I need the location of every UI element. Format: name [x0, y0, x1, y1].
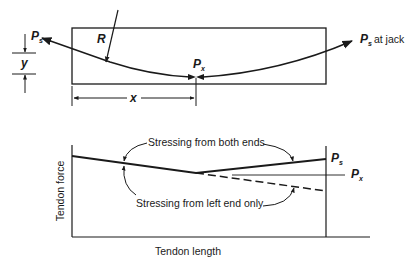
x-dim-label: x [129, 91, 138, 105]
leader-both-ends-right [263, 144, 293, 161]
px-arrowhead-left [188, 74, 196, 80]
y-axis-title: Tendon force [54, 160, 66, 221]
leader-left-end-left [124, 166, 136, 195]
y-dim-label: y [20, 56, 29, 70]
right-ps-at-jack-label: Psat jack [360, 32, 405, 47]
x-dimension: x [72, 78, 196, 106]
x-axis-title: Tendon length [155, 245, 221, 257]
radius-label: R [97, 32, 106, 46]
tendon-force-diagram: R Ps Psat jack Px y x [0, 0, 410, 262]
leader-both-ends-left [124, 143, 147, 161]
left-ps-label: Ps [31, 29, 43, 44]
leader-left-end-right [263, 188, 294, 206]
force-line-left-end-only [196, 173, 326, 191]
annotation-both-ends: Stressing from both ends [148, 136, 265, 148]
beam-elevation: R Ps Psat jack Px y x [12, 10, 405, 106]
end-ps-label: Ps [331, 151, 343, 166]
beam-outline [72, 28, 326, 84]
tendon-profile-right [203, 41, 352, 77]
annotation-left-end-only: Stressing from left end only [136, 197, 264, 209]
px-line-label: Px [351, 167, 364, 182]
tendon-force-chart: Stressing from both ends Stressing from … [54, 136, 370, 257]
mid-px-label: Px [193, 57, 206, 72]
px-arrowhead-right [196, 74, 204, 80]
radius-arrow [106, 10, 118, 62]
tendon-profile-left [42, 38, 190, 77]
force-line-both-ends [72, 156, 326, 173]
